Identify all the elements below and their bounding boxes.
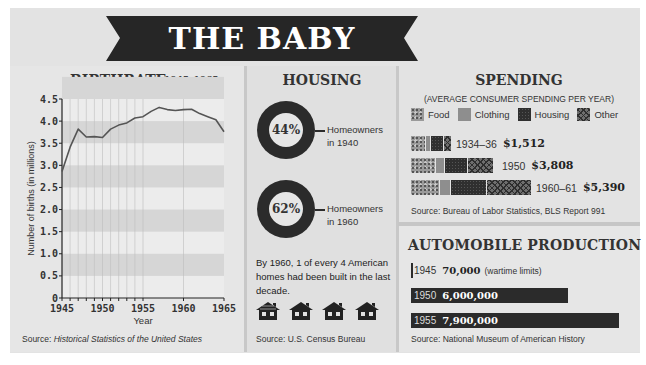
spending-segment-housing xyxy=(431,136,443,151)
spending-segment-other xyxy=(487,180,531,195)
spending-source: Source: Bureau of Labor Statistics, BLS … xyxy=(411,206,605,216)
donut-1940: 44% xyxy=(257,101,315,159)
housing-swatch xyxy=(518,108,531,121)
homeowners-1940-label: Homeownersin 1940 xyxy=(327,123,383,149)
donut-1960: 62% xyxy=(257,180,315,238)
housing-note: By 1960, 1 of every 4 American homes had… xyxy=(256,256,396,298)
spending-segment-clothing xyxy=(436,158,444,173)
house-icon xyxy=(355,302,379,320)
spending-segment-other xyxy=(468,158,493,173)
other-swatch xyxy=(577,108,590,121)
svg-text:1.5: 1.5 xyxy=(40,226,58,237)
legend-item-housing: Housing xyxy=(518,108,570,121)
auto-row-1945: 1945 70,000 (wartime limits) xyxy=(411,263,542,278)
spending-segment-housing xyxy=(445,158,467,173)
spending-segment-food xyxy=(411,180,439,195)
spending-year: 1950 xyxy=(502,160,525,172)
legend-item-clothing: Clothing xyxy=(458,108,510,121)
svg-text:1955: 1955 xyxy=(131,303,155,314)
spending-segment-housing xyxy=(451,180,486,195)
auto-bar xyxy=(411,263,413,278)
svg-text:1.0: 1.0 xyxy=(40,248,58,259)
svg-text:0: 0 xyxy=(52,293,58,304)
svg-text:1960: 1960 xyxy=(171,303,195,314)
house-icon xyxy=(256,302,280,320)
svg-text:1945: 1945 xyxy=(50,303,74,314)
donut-value: 44% xyxy=(269,113,303,147)
auto-row-1955: 1955 7,900,000 xyxy=(411,313,498,328)
spending-segment-other xyxy=(444,136,451,151)
svg-text:2.5: 2.5 xyxy=(40,182,58,193)
automobile-source: Source: National Museum of American Hist… xyxy=(411,334,585,344)
spending-segment-food xyxy=(411,158,435,173)
svg-text:3.0: 3.0 xyxy=(40,160,58,171)
spending-amount: $5,390 xyxy=(583,181,625,194)
connector-line xyxy=(315,130,325,132)
spending-legend: Food Clothing Housing Other xyxy=(411,108,618,121)
svg-text:Year: Year xyxy=(133,315,152,326)
legend-item-food: Food xyxy=(411,108,450,121)
divider xyxy=(398,222,640,226)
svg-text:2.0: 2.0 xyxy=(40,204,58,215)
svg-text:4.0: 4.0 xyxy=(40,116,58,127)
connector-line xyxy=(315,209,325,211)
house-icons xyxy=(256,302,379,320)
spending-subtitle: (AVERAGE CONSUMER SPENDING PER YEAR) xyxy=(398,94,640,104)
auto-row-1950: 1950 6,000,000 xyxy=(411,288,498,303)
housing-title: HOUSING xyxy=(247,72,397,88)
spending-title: SPENDING xyxy=(398,72,640,88)
svg-text:1950: 1950 xyxy=(90,303,114,314)
svg-text:3.5: 3.5 xyxy=(40,138,58,149)
divider xyxy=(396,66,399,352)
spending-row: 1960–61 $5,390 xyxy=(411,180,625,195)
svg-text:1965: 1965 xyxy=(212,303,236,314)
svg-text:0.5: 0.5 xyxy=(40,270,58,281)
spending-segment-food xyxy=(411,136,425,151)
spending-row: 1934–36 $1,512 xyxy=(411,136,545,151)
automobile-title: AUTOMOBILE PRODUCTION xyxy=(408,237,641,253)
spending-year: 1960–61 xyxy=(536,182,577,194)
svg-text:Number of births (in millions): Number of births (in millions) xyxy=(26,141,36,256)
legend-item-other: Other xyxy=(577,108,618,121)
spending-amount: $3,808 xyxy=(531,159,573,172)
spending-row: 1950 $3,808 xyxy=(411,158,573,173)
spending-segment-clothing xyxy=(426,136,430,151)
housing-source: Source: U.S. Census Bureau xyxy=(256,334,365,344)
food-swatch xyxy=(411,108,424,121)
house-icon xyxy=(322,302,346,320)
clothing-swatch xyxy=(458,108,471,121)
spending-year: 1934–36 xyxy=(456,138,497,150)
donut-value: 62% xyxy=(269,192,303,226)
birthrate-source: Source: Historical Statistics of the Uni… xyxy=(22,334,202,344)
svg-text:4.5: 4.5 xyxy=(40,94,58,105)
homeowners-1960-label: Homeownersin 1960 xyxy=(327,202,383,228)
spending-amount: $1,512 xyxy=(503,137,545,150)
birthrate-line-chart: 00.51.01.52.02.53.03.54.04.5194519501955… xyxy=(0,0,246,365)
spending-segment-clothing xyxy=(440,180,450,195)
house-icon xyxy=(289,302,313,320)
